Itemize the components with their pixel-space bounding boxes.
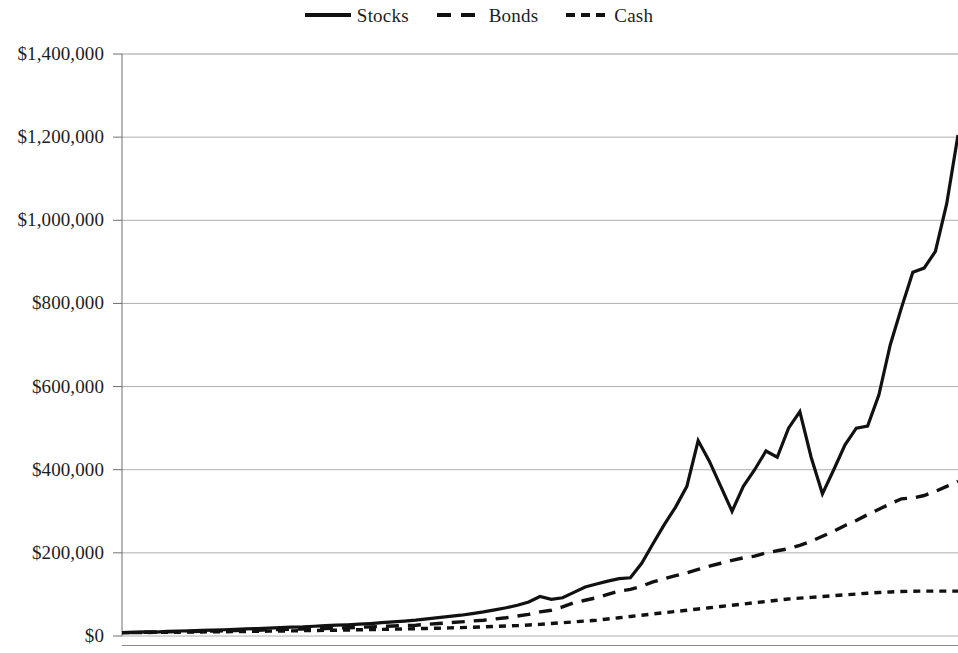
gridlines <box>113 54 958 636</box>
chart-figure: Stocks Bonds Cash $0$200,000$400,000$600… <box>0 0 958 653</box>
series-line-bonds <box>122 481 958 632</box>
data-series-group <box>122 135 958 633</box>
chart-canvas <box>0 0 958 653</box>
series-line-stocks <box>122 135 958 633</box>
bottom-rule <box>122 645 958 646</box>
plot-area <box>0 0 958 653</box>
